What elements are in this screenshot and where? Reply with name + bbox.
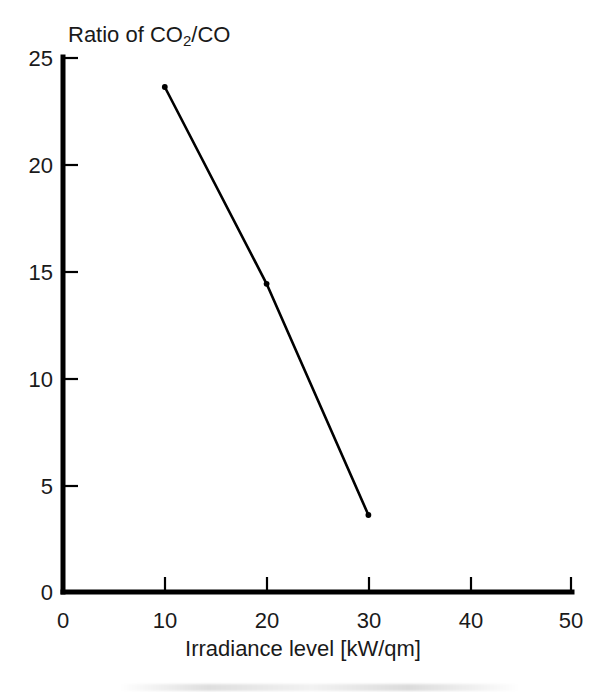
y-tick-label-15: 15 — [29, 260, 53, 285]
y-tick-label-5: 5 — [41, 474, 53, 499]
page-scan-artifact — [120, 684, 520, 691]
x-axis-ticks — [165, 577, 571, 590]
y-tick-label-25: 25 — [29, 46, 53, 71]
plot-area: 25 20 15 10 5 0 0 10 20 30 40 — [0, 0, 606, 692]
y-tick-label-20: 20 — [29, 153, 53, 178]
y-axis: 25 20 15 10 5 0 — [29, 46, 78, 605]
y-tick-label-0: 0 — [41, 580, 53, 605]
y-axis-tick-labels: 25 20 15 10 5 0 — [29, 46, 53, 605]
data-point — [264, 281, 270, 287]
x-axis: 0 10 20 30 40 50 — [57, 577, 583, 633]
x-tick-label-0: 0 — [57, 608, 69, 633]
x-tick-label-40: 40 — [459, 608, 483, 633]
x-tick-label-10: 10 — [153, 608, 177, 633]
data-point — [162, 84, 168, 90]
x-tick-label-20: 20 — [255, 608, 279, 633]
x-axis-title: Irradiance level [kW/qm] — [0, 636, 606, 662]
y-tick-label-10: 10 — [29, 367, 53, 392]
chart-figure: Ratio of CO2/CO 25 20 15 10 5 0 — [0, 0, 606, 692]
y-axis-ticks — [65, 58, 78, 486]
data-line — [165, 87, 369, 515]
x-axis-tick-labels: 0 10 20 30 40 50 — [57, 608, 583, 633]
x-tick-label-30: 30 — [357, 608, 381, 633]
data-point — [366, 512, 372, 518]
x-tick-label-50: 50 — [559, 608, 583, 633]
data-series-co2-co-ratio — [162, 84, 371, 518]
